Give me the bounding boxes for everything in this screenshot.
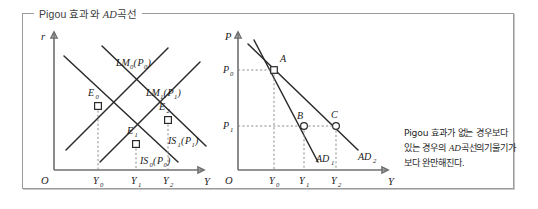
islm-xtick-0-base: Y [93,175,100,186]
ad-xtick-1-base: Y [299,175,306,186]
figure-title-prefix: Pigou [39,8,66,20]
svg-text:): ) [177,87,182,99]
islm-xtick-1-sub: 1 [138,181,141,188]
figure-title-main: 효과와 [66,8,102,20]
label-is1: IS 1 ( P 1 ) [167,135,199,148]
ad-origin-label: O [225,175,233,186]
islm-xtick-2-sub: 2 [170,181,174,188]
label-lm0: LM 0 ( P 0 ) [115,57,152,70]
label-lm0-base: LM [115,57,131,68]
figure-caption: Pigou 효과가 없는 경우보다 있는 경우의 AD곡선의기울기가 보다 완만… [404,126,516,171]
caption-line2-b: 곡선의 [461,142,485,153]
figure-root: Pigou 효과와 AD곡선 [0,0,538,209]
ad-ytick-0: P 0 [222,64,234,77]
islm-axes [51,32,204,173]
islm-xtick-1-base: Y [131,175,138,186]
label-ad1-base: AD [315,153,330,164]
figure-title-suffix: 곡선 [117,8,137,20]
label-is0: IS 0 ( P 0 ) [139,155,171,168]
label-e0: E 0 [87,87,100,100]
islm-xtick-2-base: Y [163,175,170,186]
label-is0-arg: P [156,155,163,166]
ad-xtick-2-sub: 2 [338,181,342,188]
ad-xtick-1-sub: 1 [306,181,309,188]
ad-y-axis-label: P [224,31,232,42]
label-is1-base: IS [167,135,176,146]
ad-xtick-0: Y 0 [269,175,280,188]
label-lm1-arg: P [167,87,174,98]
svg-text:): ) [147,57,152,69]
label-lm0-arg: P [137,57,144,68]
chart-panel-islm: E 0 E 1 E 2 LM 0 ( P 0 ) LM 1 [28,22,218,187]
ad-ytick-0-base: P [222,64,229,75]
label-ad2-sub: 2 [373,157,377,164]
label-lm1-base: LM [145,87,161,98]
chart-panel-ad: A B C AD 1 AD 2 P Y O P 0 P 1 [212,22,402,187]
islm-x-axis-label: Y [204,176,211,187]
label-point-c: C [331,109,338,120]
caption-line1-b: 효과가 없는 경우보 [428,127,499,138]
ad-xtick-0-sub: 0 [276,181,280,188]
label-e2: E 2 [158,101,171,114]
label-ad2: AD 2 [357,151,377,164]
point-e0 [95,103,102,110]
label-point-b: B [297,110,303,121]
islm-xtick-0: Y 0 [93,175,104,188]
ad-xtick-1: Y 1 [299,175,309,188]
caption-line1-a: Pigou [404,127,428,138]
label-e0-base: E [87,87,94,98]
figure-title-italic: AD [103,9,117,20]
ad-ytick-1-sub: 1 [230,126,233,133]
point-c [333,123,340,130]
point-b [301,123,308,130]
label-e0-sub: 0 [96,93,100,100]
label-e2-base: E [158,101,165,112]
figure-title: Pigou 효과와 AD곡선 [34,6,142,21]
point-a [271,67,278,74]
ad-ytick-0-sub: 0 [230,70,234,77]
label-is1-arg: P [184,135,191,146]
ad-ytick-1-base: P [222,120,229,131]
svg-text:): ) [166,155,171,167]
ad-ytick-1: P 1 [222,120,233,133]
islm-xtick-0-sub: 0 [100,181,104,188]
label-is0-base: IS [139,155,148,166]
ad-xtick-2: Y 2 [331,175,342,188]
label-e1-base: E [126,125,133,136]
islm-y-axis-label: r [41,31,46,42]
ad-xtick-0-base: Y [269,175,276,186]
point-e2 [165,117,172,124]
label-e1-sub: 1 [135,131,138,138]
caption-line2-italic: AD [449,143,461,153]
label-ad2-base: AD [357,151,372,162]
svg-text:): ) [194,135,199,147]
label-ad1: AD 1 [315,153,334,166]
islm-origin-label: O [41,175,49,186]
label-ad1-sub: 1 [331,159,334,166]
ad-xtick-2-base: Y [331,175,338,186]
islm-xtick-1: Y 1 [131,175,141,188]
point-e1 [133,141,140,148]
ad-x-axis-label: Y [388,176,395,187]
label-lm1: LM 1 ( P 1 ) [145,87,182,100]
islm-xtick-2: Y 2 [163,175,174,188]
curve-lm1 [100,62,200,162]
label-point-a: A [279,53,287,64]
